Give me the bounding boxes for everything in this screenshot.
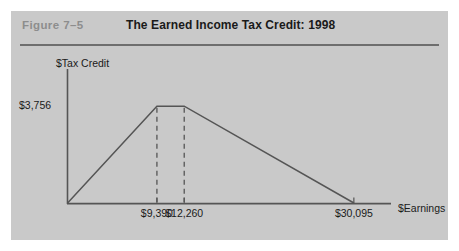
figure-panel: Figure 7–5 The Earned Income Tax Credit:…: [11, 11, 448, 240]
x-axis-tick-label-12260: $12,260: [165, 207, 203, 219]
figure-title: The Earned Income Tax Credit: 1998: [126, 18, 335, 32]
title-divider: [20, 44, 439, 46]
figure-header: Figure 7–5 The Earned Income Tax Credit:…: [11, 11, 448, 47]
chart-plot-area: $Tax Credit $Earnings $3,756 $9,390 $12,…: [11, 47, 448, 240]
x-axis-tick-label-30095: $30,095: [335, 207, 373, 219]
figure-root: Figure 7–5 The Earned Income Tax Credit:…: [0, 0, 459, 251]
x-axis-title: $Earnings: [398, 202, 445, 214]
eitc-schedule-line: [68, 106, 354, 203]
y-axis-title: $Tax Credit: [56, 57, 109, 69]
figure-number-label: Figure 7–5: [22, 19, 84, 31]
y-axis-tick-label-3756: $3,756: [19, 99, 51, 111]
eitc-line-chart: [11, 47, 448, 240]
